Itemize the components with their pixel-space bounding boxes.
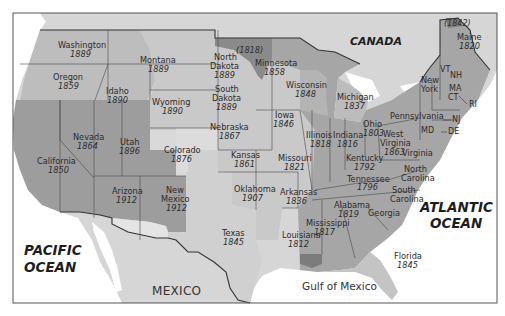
label-gulf-of-mexico: Gulf of Mexico [302,280,377,292]
state-tennessee-year: 1796 [357,182,378,192]
state-louisiana-year: 1812 [288,239,309,249]
state-illinois-year: 1818 [310,139,331,149]
state-wisconsin-year: 1848 [295,89,316,99]
state-arkansas-year: 1836 [286,196,307,206]
state-arizona-year: 1912 [116,195,137,205]
state-nh-abbr: NH [450,71,462,80]
state-south-dakota-year: 1889 [216,102,237,112]
label-atlantic-1: ATLANTIC [419,199,493,215]
state-georgia-name: Georgia [368,208,400,218]
state-florida-year: 1845 [397,260,418,270]
state-new-mexico-year: 1912 [166,203,187,213]
state-utah-year: 1896 [119,146,140,156]
state-oregon-year: 1859 [58,81,79,91]
state-idaho-year: 1890 [107,95,128,105]
state-nebraska-year: 1867 [219,131,241,141]
state-new-york-name-2: York [420,84,438,94]
label-pacific-2: OCEAN [24,259,77,275]
state-kentucky-year: 1792 [354,162,375,172]
state-kansas-year: 1861 [234,159,255,169]
state-nevada-year: 1864 [77,141,98,151]
state-de-abbr: DE [448,127,459,136]
label-maine-1842: (1842) [444,19,471,28]
state-colorado-year: 1876 [171,154,192,164]
state-alabama-year: 1819 [338,209,359,219]
state-south-carolina-name-2: Carolina [390,194,424,204]
state-texas-year: 1845 [223,237,244,247]
state-maine-year: 1820 [459,41,480,51]
state-iowa-year: 1846 [273,119,294,129]
state-montana-year: 1889 [148,64,169,74]
label-red-river-1818: (1818) [236,45,263,55]
state-vt-abbr: VT [440,65,450,74]
label-pacific-1: PACIFIC [24,242,82,258]
state-ct-abbr: CT [448,93,459,102]
state-ohio-year: 1803 [363,128,384,138]
state-virginia-name: Virginia [402,148,433,158]
state-california-year: 1850 [48,165,69,175]
state-indiana-year: 1816 [337,139,358,149]
state-washington-year: 1889 [70,49,91,59]
state-missouri-year: 1821 [284,162,305,172]
state-mississippi-year: 1817 [314,227,336,237]
state-ma-abbr: MA [449,84,462,93]
state-north-dakota-year: 1889 [214,70,235,80]
state-wyoming-year: 1890 [162,106,183,116]
territorial-expansion-map: CANADA MEXICO PACIFIC OCEAN ATLANTIC OCE… [0,0,505,316]
label-canada: CANADA [350,35,402,48]
state-pennsylvania-name: Pennsylvania [390,111,444,121]
state-oklahoma-year: 1907 [242,193,264,203]
state-north-carolina-name-2: Carolina [401,173,435,183]
state-nj-abbr: NJ [452,115,460,124]
state-michigan-year: 1837 [344,101,366,111]
label-atlantic-2: OCEAN [430,215,483,231]
state-minnesota-year: 1858 [264,67,285,77]
label-mexico: MEXICO [152,284,201,298]
state-md-abbr: MD [421,126,434,135]
state-ri-abbr: RI [469,100,477,109]
